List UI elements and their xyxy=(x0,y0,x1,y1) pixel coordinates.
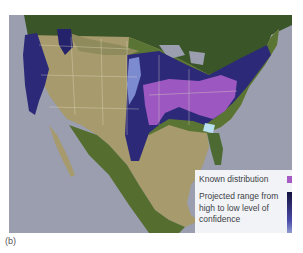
legend-known-swatch xyxy=(287,176,292,183)
legend-known-label: Known distribution xyxy=(199,174,268,184)
great-lake xyxy=(189,51,205,65)
legend: Known distribution Projected range from … xyxy=(195,170,292,233)
panel-label: (b) xyxy=(5,236,16,246)
legend-projected-label: Projected range from high to low level o… xyxy=(199,191,285,226)
legend-confidence-gradient xyxy=(287,192,292,233)
map: Known distribution Projected range from … xyxy=(9,15,292,233)
